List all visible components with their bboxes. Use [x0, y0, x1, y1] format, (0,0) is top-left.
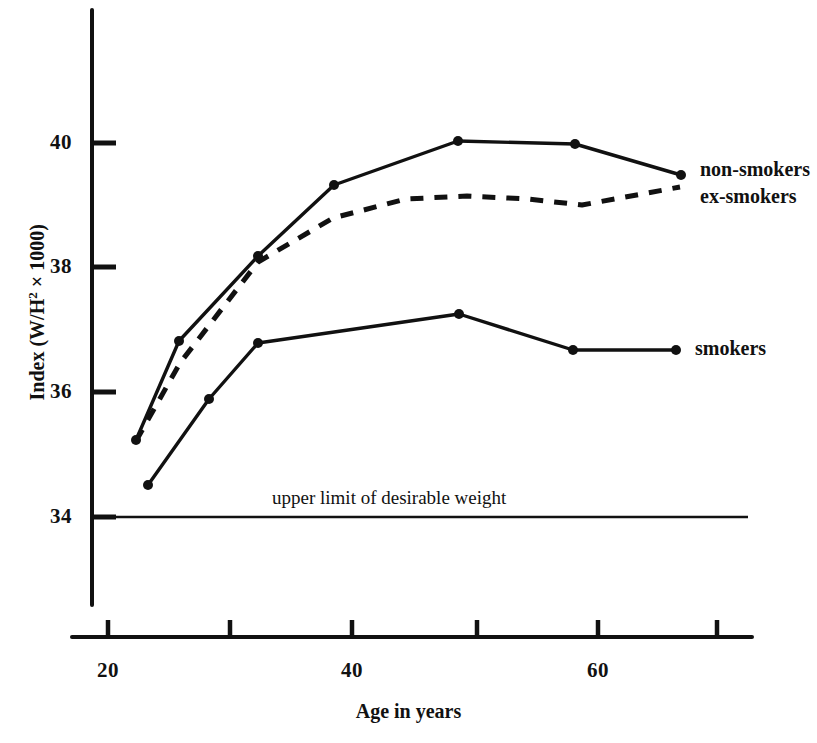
y-tick-label-34: 34 — [10, 504, 72, 529]
y-axis-ticks — [92, 143, 116, 517]
data-point — [131, 435, 141, 445]
series-line-non-smokers — [136, 141, 681, 440]
series-line-ex-smokers — [136, 187, 680, 441]
data-point — [671, 345, 681, 355]
x-axis-title: Age in years — [0, 700, 817, 723]
y-axis-title-prefix: Index (W/H — [26, 299, 48, 401]
data-point — [570, 139, 580, 149]
data-point — [253, 251, 263, 261]
data-point — [204, 394, 214, 404]
x-tick-label-40: 40 — [322, 658, 382, 683]
y-axis-title-exponent: 2 — [25, 292, 40, 299]
series-markers-non-smokers — [131, 136, 686, 445]
reference-line-label: upper limit of desirable weight — [272, 487, 506, 509]
series-label-smokers: smokers — [695, 337, 766, 360]
y-axis-title: Index (W/H2 × 1000) — [25, 207, 50, 417]
x-axis-ticks — [108, 620, 717, 637]
data-point — [453, 136, 463, 146]
data-point — [568, 345, 578, 355]
data-point — [253, 338, 263, 348]
y-tick-label-40: 40 — [10, 130, 72, 155]
data-point — [143, 480, 153, 490]
y-axis-title-suffix: × 1000) — [26, 224, 48, 292]
chart-plot-area — [0, 0, 817, 743]
data-point — [676, 170, 686, 180]
series-label-ex-smokers: ex-smokers — [700, 185, 797, 208]
x-tick-label-20: 20 — [78, 658, 138, 683]
data-point — [329, 180, 339, 190]
series-line-smokers — [148, 314, 676, 485]
chart-figure: 40 38 36 34 20 40 60 Index (W/H2 × 1000)… — [0, 0, 817, 743]
series-label-non-smokers: non-smokers — [700, 158, 810, 181]
data-point — [174, 336, 184, 346]
x-tick-label-60: 60 — [568, 658, 628, 683]
series-markers-smokers — [143, 309, 681, 490]
data-point — [454, 309, 464, 319]
